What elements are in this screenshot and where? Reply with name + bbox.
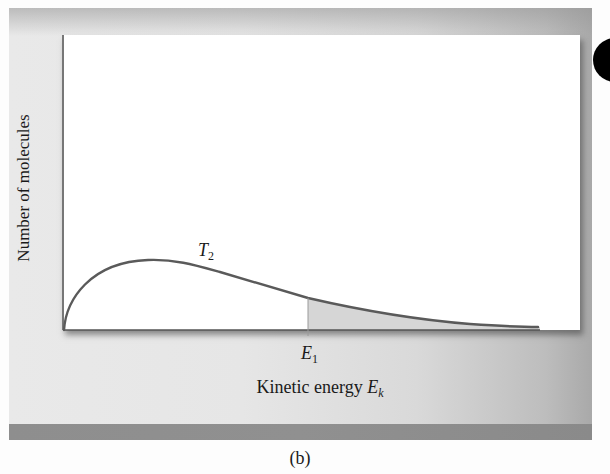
e1-subscript: 1: [312, 352, 318, 366]
e1-symbol: E: [301, 343, 312, 363]
t2-distribution-curve: [64, 260, 538, 330]
x-axis-label: Kinetic energy Ek: [257, 377, 384, 401]
threshold-label-e1: E1: [301, 343, 318, 367]
x-axis-label-text: Kinetic energy: [257, 377, 368, 397]
distribution-plot: [0, 0, 610, 474]
y-axis-label: Number of molecules: [14, 114, 34, 261]
x-axis-label-subscript: k: [378, 386, 383, 400]
t2-symbol: T: [198, 240, 208, 260]
figure-caption: (b): [290, 448, 311, 469]
t2-subscript: 2: [208, 249, 214, 263]
x-axis-label-symbol: E: [367, 377, 378, 397]
figure-stage: Number of molecules T2 E1 Kinetic energy…: [0, 0, 610, 474]
curve-label-t2: T2: [198, 240, 214, 264]
